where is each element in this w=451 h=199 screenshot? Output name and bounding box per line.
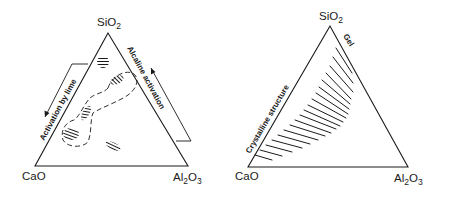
label-alcaline-activation: Alcaline activation <box>125 45 166 111</box>
right-triangle <box>248 26 408 167</box>
hatched-region-lower-left <box>63 128 79 140</box>
label-gel: Gel <box>341 32 355 48</box>
left-vertex-al2o3: Al2O3 <box>173 171 202 186</box>
hatched-region-top <box>97 56 109 68</box>
hatched-region-bottom <box>104 139 121 152</box>
right-vertex-cao: CaO <box>235 170 259 182</box>
hatched-region-upper-right <box>109 73 125 86</box>
left-vertex-sio2: SiO2 <box>97 16 121 31</box>
hatched-region-middle <box>79 104 93 121</box>
ternary-diagrams-figure: Activation by lime Alcaline activation S… <box>0 0 451 199</box>
right-vertex-sio2: SiO2 <box>319 10 343 25</box>
label-crystalline-structure: Crystalline structure <box>244 83 291 155</box>
left-vertex-cao: CaO <box>22 170 46 182</box>
right-vertex-al2o3: Al2O3 <box>394 172 423 187</box>
right-ternary-diagram: Gel Crystalline structure SiO2 CaO Al2O3 <box>235 10 423 187</box>
left-ternary-diagram: Activation by lime Alcaline activation S… <box>22 16 202 186</box>
gel-transition-hatching <box>255 48 353 160</box>
